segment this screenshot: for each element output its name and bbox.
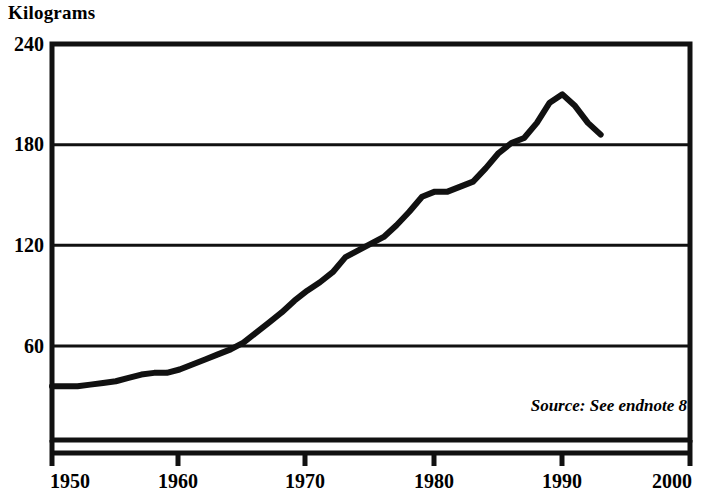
chart-figure: Kilograms 240 180 120 60 1950 1960 1970 …: [0, 0, 715, 504]
x-tick-label-1970: 1970: [265, 470, 345, 492]
x-tick-label-1990: 1990: [522, 470, 602, 492]
x-tick-label-2000: 2000: [612, 470, 692, 492]
x-tick-label-1980: 1980: [394, 470, 474, 492]
source-annotation: Source: See endnote 8: [531, 396, 687, 416]
data-series-line: [52, 94, 601, 386]
x-tick-label-1960: 1960: [138, 470, 218, 492]
x-tick-label-1950: 1950: [50, 470, 130, 492]
plot-area: [0, 0, 715, 504]
